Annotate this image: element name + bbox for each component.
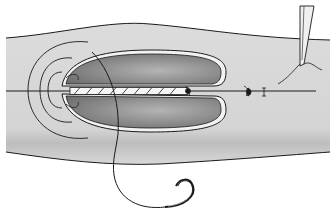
curved-needle-highlight — [168, 187, 192, 206]
twisted-suture-strand — [70, 88, 188, 95]
surgical-suture-illustration — [0, 0, 332, 224]
